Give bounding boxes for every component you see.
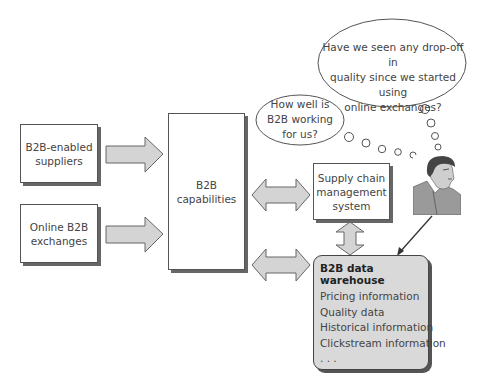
suppliers-label: B2B-enabled suppliers [21,140,96,168]
warehouse-item: Quality data [320,305,422,321]
warehouse-title: B2B data warehouse [320,262,422,286]
warehouse-item: Clickstream information [320,336,422,352]
warehouse-item: Pricing information [320,289,422,305]
suppliers-box: B2B-enabled suppliers [20,124,98,183]
arrow-exchanges-to-capabilities [106,217,163,252]
capabilities-label: B2B capabilities [169,178,244,206]
double-arrow-capabilities-warehouse [252,249,310,281]
arrow-suppliers-to-capabilities [106,137,163,172]
exchanges-label: Online B2B exchanges [26,220,92,248]
exchanges-box: Online B2B exchanges [20,204,98,263]
data-warehouse-box: B2B data warehouse Pricing information Q… [313,255,429,370]
warehouse-item: . . . [320,351,422,367]
manager-portrait-icon [413,155,461,215]
capabilities-box: B2B capabilities [168,113,245,270]
warehouse-item: Historical information [320,320,422,336]
pointer-line [400,216,432,252]
thought-trail-small [345,133,417,159]
double-arrow-supplychain-warehouse [336,222,364,255]
double-arrow-capabilities-supplychain [252,179,310,211]
supply-chain-box: Supply chain management system [313,163,390,220]
supply-chain-label: Supply chain management system [312,171,390,213]
thought-large-text: Have we seen any drop-off in quality sin… [320,40,466,115]
